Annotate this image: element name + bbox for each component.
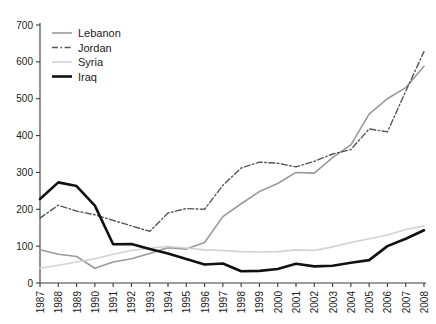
x-axis-tick-label: 1992 [126, 291, 137, 314]
x-axis-tick-label: 2004 [346, 291, 357, 314]
x-axis-tick-label: 2003 [328, 291, 339, 314]
x-axis-tick-label: 1999 [254, 291, 265, 314]
chart-canvas: 0100200300400500600700 19871988198919901… [0, 0, 436, 324]
y-axis-tick-label: 700 [16, 20, 33, 31]
x-axis-tick-label: 2008 [419, 291, 430, 314]
legend-label-lebanon: Lebanon [78, 27, 121, 39]
line-chart: 0100200300400500600700 19871988198919901… [0, 0, 436, 324]
x-axis-tick-label: 2000 [273, 291, 284, 314]
x-axis-tick-label: 1991 [108, 291, 119, 314]
x-axis-tick-label: 1989 [72, 291, 83, 314]
x-axis-tick-label: 2002 [309, 291, 320, 314]
legend-label-syria: Syria [78, 56, 104, 68]
y-axis-tick-label: 200 [16, 204, 33, 215]
chart-background [0, 0, 436, 324]
x-axis-tick-label: 1996 [200, 291, 211, 314]
x-axis-tick-label: 1998 [236, 291, 247, 314]
x-axis-tick-label: 2006 [382, 291, 393, 314]
x-axis-tick-label: 1995 [181, 291, 192, 314]
y-axis-tick-label: 600 [16, 56, 33, 67]
legend-label-jordan: Jordan [78, 42, 112, 54]
y-axis-tick-label: 400 [16, 130, 33, 141]
x-axis-tick-label: 2007 [401, 291, 412, 314]
legend-label-iraq: Iraq [78, 71, 97, 83]
y-axis-tick-label: 100 [16, 241, 33, 252]
y-axis-tick-label: 300 [16, 167, 33, 178]
x-axis-tick-label: 1994 [163, 291, 174, 314]
x-axis-tick-label: 1993 [145, 291, 156, 314]
x-axis-tick-label: 2001 [291, 291, 302, 314]
x-axis-tick-label: 1987 [35, 291, 46, 314]
y-axis-tick-label: 500 [16, 93, 33, 104]
y-axis-tick-label: 0 [27, 278, 33, 289]
x-axis-tick-label: 1997 [218, 291, 229, 314]
x-axis-tick-label: 1990 [90, 291, 101, 314]
x-axis-tick-label: 2005 [364, 291, 375, 314]
x-axis-tick-label: 1988 [53, 291, 64, 314]
